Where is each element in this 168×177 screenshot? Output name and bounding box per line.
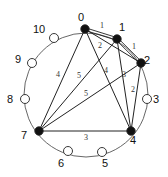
node-3 xyxy=(143,95,152,104)
node-label: 7 xyxy=(21,129,27,141)
node-1 xyxy=(113,35,121,43)
node-label: 4 xyxy=(130,134,136,146)
node-label: 3 xyxy=(153,93,159,105)
node-label: 2 xyxy=(144,54,150,66)
node-10 xyxy=(50,34,59,43)
node-9 xyxy=(28,59,37,68)
edge-weight-label: 3 xyxy=(84,133,88,142)
node-label: 6 xyxy=(58,157,64,169)
node-label: 5 xyxy=(102,157,108,169)
graph-diagram: 1123244553 012345678910 xyxy=(0,0,168,177)
edge-weight-label: 5 xyxy=(77,71,81,80)
node-7 xyxy=(35,127,43,135)
node-labels: 012345678910 xyxy=(7,11,159,169)
node-label: 8 xyxy=(7,93,13,105)
node-label: 0 xyxy=(78,11,84,23)
edge-2-4 xyxy=(131,63,141,131)
node-label: 1 xyxy=(119,21,125,33)
edge-weight-label: 5 xyxy=(84,89,88,98)
edge-weight-label: 1 xyxy=(100,21,104,30)
edge-1-7 xyxy=(39,39,117,131)
edge-weight-label: 4 xyxy=(104,66,108,75)
edge-weight-label: 2 xyxy=(98,41,102,50)
edge-labels: 1123244553 xyxy=(56,21,136,142)
edge-1-2 xyxy=(118,38,142,62)
node-5 xyxy=(98,148,107,157)
node-label: 9 xyxy=(15,53,21,65)
edges xyxy=(39,28,142,131)
edge-weight-label: 2 xyxy=(131,85,135,94)
node-label: 10 xyxy=(33,23,45,35)
node-8 xyxy=(21,95,30,104)
edge-weight-label: 1 xyxy=(132,42,136,51)
node-0 xyxy=(81,25,89,33)
edge-weight-label: 4 xyxy=(56,70,60,79)
node-6 xyxy=(64,147,73,156)
edge-weight-label: 3 xyxy=(122,70,126,79)
